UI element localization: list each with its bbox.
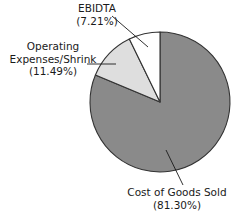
pie-label-operating-expenses-shrink: Operating Expenses/Shrink (11.49%)	[0, 40, 106, 78]
pie-label-ebidta-value: (7.21%)	[58, 15, 136, 28]
pie-chart-canvas	[0, 0, 237, 216]
pie-label-ebidta: EBIDTA (7.21%)	[58, 2, 136, 27]
pie-chart: EBIDTA (7.21%) Operating Expenses/Shrink…	[0, 0, 237, 216]
pie-label-operating-expenses-line1: Operating	[0, 40, 106, 53]
pie-label-operating-expenses-line2: Expenses/Shrink	[0, 53, 106, 66]
pie-label-ebidta-name: EBIDTA	[58, 2, 136, 15]
pie-label-cost-of-goods-sold: Cost of Goods Sold (81.30%)	[118, 186, 236, 211]
pie-label-cost-of-goods-sold-value: (81.30%)	[118, 199, 236, 212]
pie-label-operating-expenses-value: (11.49%)	[0, 65, 106, 78]
pie-label-cost-of-goods-sold-name: Cost of Goods Sold	[118, 186, 236, 199]
